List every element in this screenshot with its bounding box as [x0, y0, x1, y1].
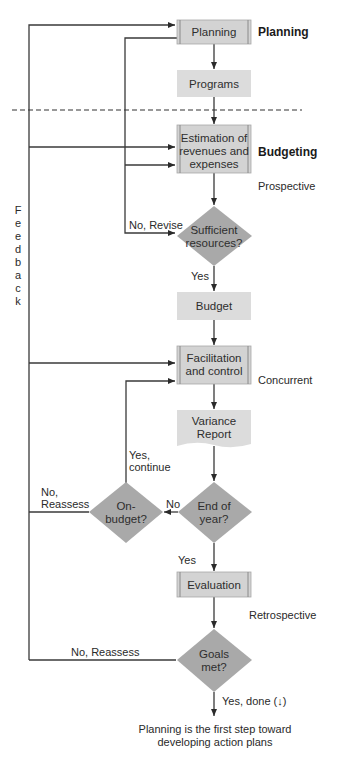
edge-label-yes-evaluation: Yes [178, 554, 196, 566]
feedback-vertical-label: F e e d b a c k [15, 204, 22, 307]
edge-label-no-reassess-goals: No, Reassess [71, 646, 140, 658]
node-facilitation: Facilitation and control [177, 346, 251, 384]
feedback-letter: c [15, 282, 21, 294]
goals-met-label-line1: Goals [199, 648, 229, 660]
outer-feedback-line [29, 25, 175, 660]
feedback-letter: a [15, 269, 22, 281]
estimation-label-line3: expenses [189, 158, 238, 170]
estimation-label-line1: Estimation of [181, 132, 248, 144]
node-on-budget: On- budget? [89, 482, 163, 543]
end-of-year-label-line1: End of [197, 500, 231, 512]
phase-label-retrospective: Retrospective [249, 609, 316, 621]
planning-flowchart: Planning Programs Estimation of revenues… [0, 0, 342, 757]
node-programs: Programs [177, 70, 251, 97]
caption-line1: Planning is the first step toward [139, 723, 292, 735]
feedback-letter: e [15, 230, 21, 242]
node-estimation: Estimation of revenues and expenses [177, 125, 251, 173]
programs-label: Programs [189, 78, 239, 90]
edge-label-yes-budget: Yes [191, 270, 209, 282]
inner-revise-line [125, 38, 177, 233]
end-of-year-label-line2: year? [200, 513, 229, 525]
node-goals-met: Goals met? [177, 629, 252, 692]
feedback-letter: b [15, 256, 21, 268]
node-evaluation: Evaluation [177, 572, 251, 597]
feedback-letter: F [15, 204, 22, 216]
planning-label: Planning [192, 26, 237, 38]
node-budget: Budget [177, 292, 251, 320]
estimation-label-line2: revenues and [179, 145, 249, 157]
variance-label-line1: Variance [192, 415, 237, 427]
facilitation-label-line2: and control [186, 365, 243, 377]
caption-line2: developing action plans [158, 736, 273, 748]
node-sufficient-resources: Sufficient resources? [177, 206, 252, 266]
feedback-letter: d [15, 243, 21, 255]
edge-label-no-end-of-year: No [166, 498, 180, 510]
sufficient-label-line1: Sufficient [190, 224, 238, 236]
edge-label-yes-continue-line2: continue [129, 461, 171, 473]
on-budget-label-line1: On- [116, 500, 135, 512]
phase-label-concurrent: Concurrent [258, 374, 312, 386]
edge-label-no-reassess-onbudget-line2: Reassess [41, 498, 90, 510]
budget-label: Budget [196, 300, 233, 312]
phase-label-planning: Planning [258, 25, 309, 39]
phase-label-budgeting: Budgeting [258, 145, 317, 159]
variance-label-line2: Report [197, 428, 232, 440]
phase-label-prospective: Prospective [258, 180, 315, 192]
feedback-letter: k [15, 295, 21, 307]
node-planning: Planning [177, 20, 251, 44]
sufficient-label-line2: resources? [186, 237, 243, 249]
facilitation-label-line1: Facilitation [187, 352, 242, 364]
node-variance-report: Variance Report [177, 410, 251, 447]
edge-label-yes-continue-line1: Yes, [129, 449, 150, 461]
edge-label-no-reassess-onbudget-line1: No, [41, 486, 58, 498]
goals-met-label-line2: met? [201, 661, 227, 673]
evaluation-label: Evaluation [187, 579, 241, 591]
feedback-letter: e [15, 217, 21, 229]
on-budget-label-line2: budget? [105, 513, 147, 525]
node-end-of-year: End of year? [178, 482, 252, 543]
edge-label-no-revise: No, Revise [129, 219, 183, 231]
edge-label-yes-done: Yes, done (↓) [222, 695, 286, 707]
